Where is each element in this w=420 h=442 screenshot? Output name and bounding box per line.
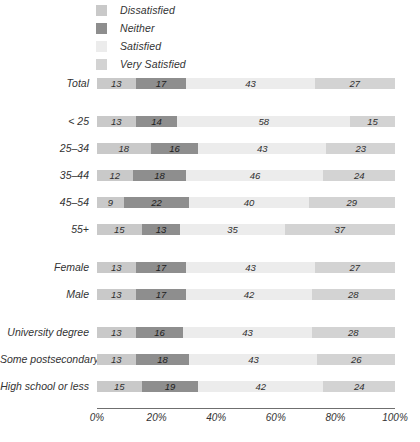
legend-swatch-dissatisfied (96, 5, 107, 16)
bar-segment-dissatisfied[interactable]: 13 (97, 354, 136, 365)
bar-segment-very_satisfied[interactable]: 27 (315, 262, 395, 273)
bar-segment-dissatisfied[interactable]: 18 (97, 143, 151, 154)
bar-segment-neither[interactable]: 13 (142, 224, 181, 235)
x-tick-label: 0% (90, 412, 104, 423)
bar-segment-value: 9 (97, 197, 124, 208)
bar-segment-neither[interactable]: 17 (136, 78, 187, 89)
bar-segment-dissatisfied[interactable]: 13 (97, 78, 136, 89)
legend-item-dissatisfied[interactable]: Dissatisfied (96, 2, 396, 19)
bar-segment-dissatisfied[interactable]: 13 (97, 116, 136, 127)
bar-segment-value: 13 (142, 224, 181, 235)
row-label: 45–54 (0, 196, 89, 209)
chart-row: < 2513145815 (0, 116, 420, 127)
plot-area: Total13174327< 251314581525–341816432335… (0, 78, 420, 398)
stacked-bar: 13174228 (97, 289, 395, 300)
bar-segment-very_satisfied[interactable]: 37 (285, 224, 395, 235)
chart-row: 35–4412184624 (0, 170, 420, 181)
row-label: Male (0, 288, 89, 301)
bar-segment-satisfied[interactable]: 43 (183, 327, 311, 338)
bar-segment-value: 58 (177, 116, 350, 127)
bar-segment-value: 13 (97, 262, 136, 273)
bar-segment-dissatisfied[interactable]: 13 (97, 262, 136, 273)
bar-segment-satisfied[interactable]: 43 (186, 78, 314, 89)
stacked-bar: 9224029 (97, 197, 395, 208)
bar-segment-value: 46 (186, 170, 323, 181)
bar-segment-satisfied[interactable]: 40 (189, 197, 308, 208)
stacked-bar: 13174327 (97, 262, 395, 273)
bar-segment-dissatisfied[interactable]: 13 (97, 327, 136, 338)
bar-segment-very_satisfied[interactable]: 28 (312, 327, 395, 338)
bar-segment-very_satisfied[interactable]: 26 (317, 354, 394, 365)
stacked-bar: 13145815 (97, 116, 395, 127)
x-axis-ticks: 0%20%40%60%80%100% (0, 412, 420, 428)
bar-segment-value: 24 (323, 381, 395, 392)
bar-segment-dissatisfied[interactable]: 12 (97, 170, 133, 181)
bar-segment-very_satisfied[interactable]: 23 (326, 143, 395, 154)
bar-segment-dissatisfied[interactable]: 13 (97, 289, 136, 300)
chart-row: 55+15133537 (0, 224, 420, 235)
bar-segment-dissatisfied[interactable]: 15 (97, 381, 142, 392)
bar-segment-satisfied[interactable]: 46 (186, 170, 323, 181)
bar-segment-neither[interactable]: 14 (136, 116, 178, 127)
bar-segment-neither[interactable]: 19 (142, 381, 199, 392)
bar-segment-dissatisfied[interactable]: 15 (97, 224, 142, 235)
bar-segment-neither[interactable]: 22 (124, 197, 190, 208)
legend-swatch-neither (96, 23, 107, 34)
bar-segment-neither[interactable]: 18 (136, 354, 190, 365)
bar-segment-very_satisfied[interactable]: 28 (312, 289, 395, 300)
bar-segment-neither[interactable]: 16 (136, 327, 184, 338)
bar-segment-satisfied[interactable]: 43 (189, 354, 317, 365)
legend-swatch-satisfied (96, 41, 107, 52)
bar-segment-very_satisfied[interactable]: 24 (323, 381, 395, 392)
bar-segment-very_satisfied[interactable]: 27 (315, 78, 395, 89)
row-label: Total (0, 77, 89, 90)
bar-segment-value: 18 (133, 170, 187, 181)
stacked-bar: 15133537 (97, 224, 395, 235)
bar-segment-satisfied[interactable]: 58 (177, 116, 350, 127)
legend-item-satisfied[interactable]: Satisfied (96, 38, 396, 55)
bar-segment-value: 42 (186, 289, 311, 300)
stacked-bar: 18164323 (97, 143, 395, 154)
bar-segment-value: 43 (186, 78, 314, 89)
x-tick-label: 40% (206, 412, 226, 423)
bar-segment-value: 17 (136, 78, 187, 89)
row-label: 25–34 (0, 142, 89, 155)
bar-segment-value: 18 (97, 143, 151, 154)
bar-segment-satisfied[interactable]: 43 (198, 143, 326, 154)
bar-segment-very_satisfied[interactable]: 24 (323, 170, 395, 181)
chart-row: Male13174228 (0, 289, 420, 300)
bar-segment-neither[interactable]: 17 (136, 289, 187, 300)
chart-row: Female13174327 (0, 262, 420, 273)
bar-segment-value: 28 (312, 289, 395, 300)
bar-segment-value: 27 (315, 78, 395, 89)
chart-row: Some postsecondary13184326 (0, 354, 420, 365)
bar-segment-very_satisfied[interactable]: 15 (350, 116, 395, 127)
row-label: Female (0, 261, 89, 274)
bar-segment-value: 14 (136, 116, 178, 127)
bar-segment-value: 18 (136, 354, 190, 365)
bar-segment-value: 28 (312, 327, 395, 338)
bar-segment-value: 43 (198, 143, 326, 154)
bar-segment-satisfied[interactable]: 43 (186, 262, 314, 273)
bar-segment-value: 13 (97, 354, 136, 365)
bar-segment-satisfied[interactable]: 42 (198, 381, 323, 392)
legend-item-very_satisfied[interactable]: Very Satisfied (96, 56, 396, 73)
bar-segment-value: 24 (323, 170, 395, 181)
legend-item-neither[interactable]: Neither (96, 20, 396, 37)
bar-segment-value: 12 (97, 170, 133, 181)
x-tick-label: 20% (147, 412, 167, 423)
bar-segment-value: 35 (180, 224, 284, 235)
bar-segment-satisfied[interactable]: 35 (180, 224, 284, 235)
bar-segment-value: 15 (97, 381, 142, 392)
bar-segment-neither[interactable]: 16 (151, 143, 199, 154)
bar-segment-value: 40 (189, 197, 308, 208)
bar-segment-value: 37 (285, 224, 395, 235)
bar-segment-satisfied[interactable]: 42 (186, 289, 311, 300)
bar-segment-very_satisfied[interactable]: 29 (309, 197, 395, 208)
bar-segment-dissatisfied[interactable]: 9 (97, 197, 124, 208)
stacked-bar: 13164328 (97, 327, 395, 338)
bar-segment-neither[interactable]: 17 (136, 262, 187, 273)
row-label: University degree (0, 326, 89, 339)
bar-segment-neither[interactable]: 18 (133, 170, 187, 181)
stacked-bar: 12184624 (97, 170, 395, 181)
